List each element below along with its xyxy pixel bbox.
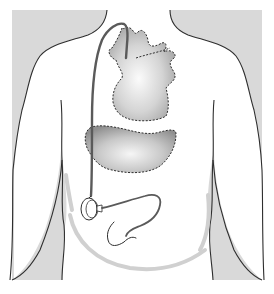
illustration-canvas: [0, 0, 274, 294]
medical-illustration: [0, 0, 274, 294]
